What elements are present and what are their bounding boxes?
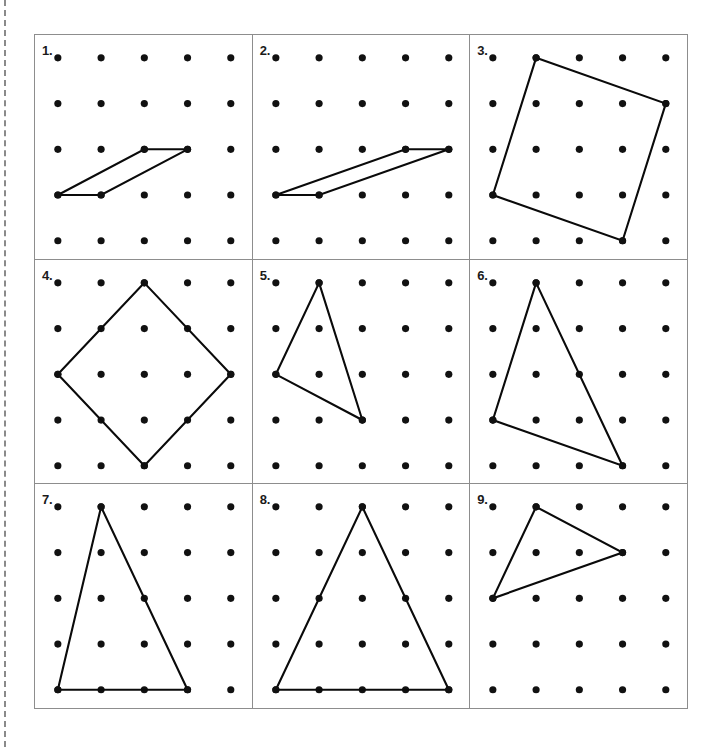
worksheet-panel-grid: 1.2.3.4.5.6.7.8.9. [34,34,688,709]
grid-dot [98,54,105,61]
grid-dot [663,146,670,153]
grid-dot [490,370,497,377]
grid-dot [358,325,365,332]
grid-dot [358,146,365,153]
shape-vertex-dot [445,687,452,694]
dot-lattice [54,279,234,469]
grid-dot [533,595,540,602]
grid-dot [272,237,279,244]
shape-vertex-dot [358,504,365,511]
grid-dot [576,279,583,286]
panel-number-label: 7. [42,493,52,506]
geoboard-panel-8[interactable]: 8. [253,484,471,709]
grid-dot [272,595,279,602]
grid-dot [490,237,497,244]
grid-dot [141,54,148,61]
grid-dot [663,641,670,648]
grid-dot [272,641,279,648]
geoboard-panel-3[interactable]: 3. [470,35,688,260]
shape-vertex-dot [490,416,497,423]
shape-vertex-dot [533,504,540,511]
grid-dot [533,146,540,153]
grid-dot [358,279,365,286]
grid-dot [402,279,409,286]
grid-dot [619,146,626,153]
grid-dot [227,146,234,153]
grid-dot [533,370,540,377]
grid-dot [184,237,191,244]
grid-dot [141,325,148,332]
grid-dot [445,279,452,286]
grid-dot [315,100,322,107]
grid-dot [227,687,234,694]
grid-dot [141,416,148,423]
grid-dot [445,595,452,602]
grid-dot [54,641,61,648]
shape-vertex-dot [54,191,61,198]
grid-dot [358,191,365,198]
grid-dot [315,325,322,332]
shape-vertex-group [54,504,191,694]
shape-vertex-dot [533,279,540,286]
panel-number-label: 1. [42,44,52,57]
grid-dot [272,54,279,61]
grid-dot [184,54,191,61]
grid-dot [533,237,540,244]
panel-canvas [253,260,470,484]
grid-dot [490,462,497,469]
geoboard-panel-6[interactable]: 6. [470,260,688,485]
shape-vertex-dot [358,416,365,423]
geoboard-panel-9[interactable]: 9. [470,484,688,709]
shape-vertex-dot [490,191,497,198]
grid-dot [445,325,452,332]
shape-vertex-dot [184,687,191,694]
grid-dot [184,279,191,286]
grid-dot [54,595,61,602]
shape-vertex-dot [619,549,626,556]
grid-dot [227,100,234,107]
shape-vertex-dot [402,146,409,153]
grid-dot [402,641,409,648]
grid-dot [445,237,452,244]
grid-dot [402,549,409,556]
panel-canvas [35,35,252,259]
geoboard-panel-1[interactable]: 1. [35,35,253,260]
grid-dot [98,279,105,286]
grid-dot [576,595,583,602]
grid-dot [619,100,626,107]
grid-dot [315,54,322,61]
geoboard-panel-7[interactable]: 7. [35,484,253,709]
grid-dot [184,549,191,556]
grid-dot [54,54,61,61]
grid-dot [576,191,583,198]
dot-lattice [272,279,452,469]
grid-dot [619,370,626,377]
geoboard-panel-5[interactable]: 5. [253,260,471,485]
geoboard-panel-4[interactable]: 4. [35,260,253,485]
grid-dot [576,687,583,694]
grid-dot [315,370,322,377]
grid-dot [533,641,540,648]
grid-dot [98,549,105,556]
grid-dot [184,504,191,511]
geoboard-panel-2[interactable]: 2. [253,35,471,260]
panel-canvas [253,484,470,708]
grid-dot [490,641,497,648]
grid-dot [227,641,234,648]
grid-dot [358,370,365,377]
panel-number-label: 5. [260,269,270,282]
grid-dot [227,54,234,61]
grid-dot [576,462,583,469]
grid-dot [445,370,452,377]
grid-dot [533,416,540,423]
grid-dot [402,504,409,511]
grid-dot [619,595,626,602]
grid-dot [141,549,148,556]
grid-dot [227,416,234,423]
grid-dot [663,462,670,469]
shape-triangle [58,507,188,690]
grid-dot [445,462,452,469]
grid-dot [663,504,670,511]
grid-dot [663,237,670,244]
grid-dot [402,191,409,198]
